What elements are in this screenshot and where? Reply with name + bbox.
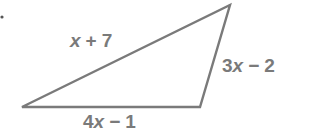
operator: −	[248, 55, 259, 76]
side-label-base: 4x−1	[83, 112, 136, 132]
constant: 1	[125, 111, 136, 132]
side-label-right: 3x−2	[222, 56, 275, 76]
variable: x	[70, 30, 81, 51]
coefficient: 4	[83, 111, 94, 132]
coefficient: 3	[222, 55, 233, 76]
operator: −	[109, 111, 120, 132]
side-label-hypotenuse: x+7	[70, 31, 112, 51]
triangle	[22, 5, 230, 107]
variable: x	[94, 111, 105, 132]
variable: x	[233, 55, 244, 76]
constant: 2	[264, 55, 275, 76]
constant: 7	[102, 30, 113, 51]
operator: +	[86, 30, 97, 51]
marker-dot	[0, 15, 3, 18]
